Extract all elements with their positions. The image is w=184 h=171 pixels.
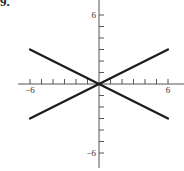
coordinate-plane: −666−6 xyxy=(0,0,184,171)
y-tick-label: −6 xyxy=(86,148,96,158)
x-tick-label: −6 xyxy=(25,85,35,95)
x-tick-label: 6 xyxy=(166,85,171,95)
y-tick-label: 6 xyxy=(92,10,97,20)
